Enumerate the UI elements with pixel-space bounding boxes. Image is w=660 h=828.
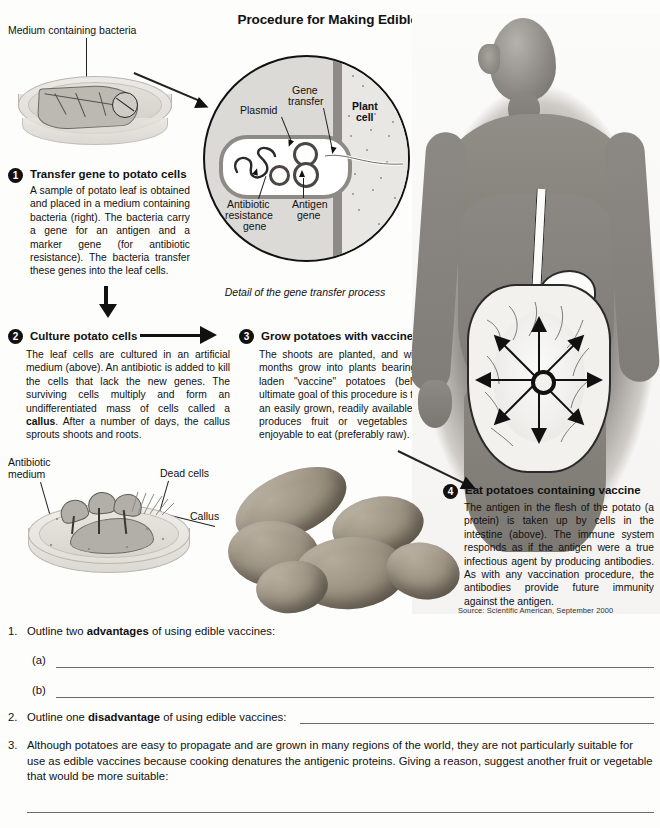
step-4-body: The antigen in the flesh of the potato (…	[464, 501, 654, 608]
question-2-text-pre: Outline one	[27, 711, 88, 723]
step-3-heading: Grow potatoes with vaccine	[261, 330, 413, 342]
label-gene-transfer-line2: transfer	[288, 95, 324, 107]
question-2-text-post: of using edible vaccines:	[160, 711, 286, 723]
step-1-number: 1	[8, 168, 23, 183]
antibiotic-resistance-gene-ring	[269, 165, 290, 186]
answer-line-2[interactable]	[300, 723, 654, 724]
arrow-ray-n	[538, 330, 540, 376]
step-2-number: 2	[8, 329, 23, 344]
shoot-2	[87, 491, 117, 516]
leader-antigen-gene	[303, 178, 304, 198]
step-2-heading: Culture potato cells	[30, 330, 137, 342]
label-antibiotic-resistance-line3: gene	[243, 220, 266, 232]
hand-left	[418, 380, 452, 428]
step-2-body: The leaf cells are cultured in an artifi…	[26, 348, 230, 442]
step-2-body-post: . After a number of days, the callus spr…	[26, 416, 230, 440]
step-3-number: 3	[239, 329, 254, 344]
question-3-number: 3.	[8, 738, 26, 754]
question-1: 1. Outline two advantages of using edibl…	[0, 624, 660, 640]
arrowhead-to-detail	[194, 97, 211, 113]
label-antibiotic-medium-line1: Antibiotic	[8, 456, 51, 468]
question-3-text: Although potatoes are easy to propagate …	[27, 738, 654, 785]
step-2-body-bold: callus	[26, 416, 55, 427]
question-1-text: Outline two advantages of using edible v…	[27, 624, 275, 640]
question-2-text-bold: disadvantage	[88, 711, 160, 723]
question-1-text-bold: advantages	[87, 625, 149, 637]
step-4-heading: Eat potatoes containing vaccine	[465, 484, 641, 496]
question-1-text-post: of using edible vaccines:	[149, 625, 275, 637]
answer-line-1b[interactable]	[56, 697, 654, 698]
arrow-shaft-step1-to-2	[104, 286, 108, 306]
petri-dish-lower	[26, 478, 191, 598]
label-plant-cell-line2: cell	[356, 111, 374, 123]
source-citation: Source: Scientific American, September 2…	[458, 606, 613, 615]
step-2-body-pre: The leaf cells are cultured in an artifi…	[26, 349, 230, 414]
arrow-ray-w	[489, 379, 535, 381]
worksheet-page: Procedure for Making Edible Vaccines Med…	[0, 0, 660, 828]
detail-caption: Detail of the gene transfer process	[195, 286, 415, 298]
face	[478, 44, 500, 74]
label-antigen-line2: gene	[297, 209, 320, 221]
question-2-text: Outline one disadvantage of using edible…	[27, 710, 286, 726]
arrow-step1-to-step2	[99, 304, 117, 318]
antigen-gene-ring	[293, 162, 319, 188]
question-1a-label: (a)	[32, 654, 46, 666]
label-medium-containing-bacteria: Medium containing bacteria	[8, 24, 136, 36]
arrow-step2-to-step3	[200, 326, 217, 344]
question-1b-label: (b)	[32, 684, 46, 696]
answer-line-1a[interactable]	[56, 667, 654, 668]
step-4-number: 4	[443, 484, 458, 499]
step-1-body: A sample of potato leaf is obtained and …	[30, 184, 190, 278]
step-1-heading: Transfer gene to potato cells	[30, 168, 187, 180]
answer-line-3[interactable]	[27, 812, 654, 813]
question-2-number: 2.	[8, 710, 26, 726]
intestine	[467, 284, 611, 473]
question-3: 3. Although potatoes are easy to propaga…	[0, 738, 660, 785]
potatoes-photo	[228, 455, 463, 620]
question-1-text-pre: Outline two	[27, 625, 87, 637]
label-plasmid: Plasmid	[240, 104, 277, 116]
petri-dish-top	[14, 50, 174, 160]
question-1-number: 1.	[8, 624, 26, 640]
arrow-shaft-step2-to-3	[140, 334, 202, 337]
antigen-uptake-hub	[531, 370, 556, 395]
